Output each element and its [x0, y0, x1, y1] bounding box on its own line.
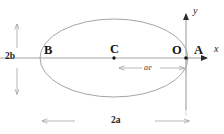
origin-point-o: [184, 56, 188, 60]
ellipse-diagram: B C O A x y 2b 2a ae: [0, 0, 224, 134]
label-focal-distance: ae: [144, 64, 152, 72]
label-minor-axis-dimension: 2b: [5, 52, 15, 62]
label-origin-o: O: [172, 44, 182, 57]
label-axis-y: y: [193, 6, 197, 16]
label-vertex-b: B: [44, 44, 52, 57]
label-axis-x: x: [214, 44, 218, 54]
label-center-c: C: [110, 43, 119, 56]
center-point-c: [112, 56, 115, 59]
label-major-axis-dimension: 2a: [111, 116, 121, 126]
label-vertex-a: A: [194, 44, 203, 57]
diagram-canvas: [0, 0, 224, 134]
